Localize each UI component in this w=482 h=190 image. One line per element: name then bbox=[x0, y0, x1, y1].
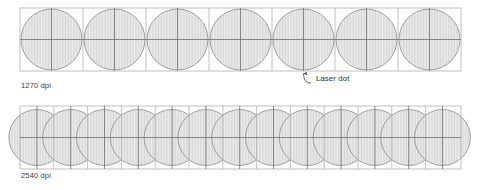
laser-dot-annotation-label: Laser dot bbox=[316, 74, 349, 83]
row-1270-dpi bbox=[20, 8, 461, 71]
figure-canvas bbox=[0, 0, 482, 190]
caption-1270-dpi: 1270 dpi bbox=[21, 81, 51, 90]
laser-dot-annotation bbox=[304, 74, 311, 84]
laser-dot-leader-arrow bbox=[304, 74, 311, 84]
caption-2540-dpi: 2540 dpi bbox=[21, 171, 51, 180]
row-2540-dpi bbox=[9, 106, 471, 169]
row-1270-crosshairs bbox=[20, 8, 461, 71]
laser-dot-resolution-figure: 1270 dpi 2540 dpi Laser dot bbox=[0, 0, 482, 190]
